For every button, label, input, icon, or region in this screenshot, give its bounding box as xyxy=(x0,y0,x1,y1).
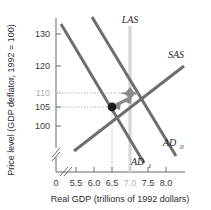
x-tick-label-0: 0 xyxy=(53,178,58,188)
as-ad-chart-figure: 130 120 110 105 100 0 5.5 6.0 6.5 7.0 7.… xyxy=(0,0,211,210)
guide-lines xyxy=(57,93,133,170)
x-axis-title: Real GDP (trillions of 1992 dollars) xyxy=(51,194,189,204)
ad0-label-subscript: 0 xyxy=(180,143,184,151)
y-tick-label-105: 105 xyxy=(35,102,50,112)
chart-canvas: 130 120 110 105 100 0 5.5 6.0 6.5 7.0 7.… xyxy=(0,0,211,210)
ad0-curve xyxy=(92,17,176,156)
ad1-label: AD xyxy=(130,156,145,167)
y-tick-label-120: 120 xyxy=(35,61,50,71)
x-tick-label-8-0: 8.0 xyxy=(160,178,173,188)
y-tick-label-100: 100 xyxy=(35,121,50,131)
y-tick-label-110: 110 xyxy=(36,88,50,98)
las-label: LAS xyxy=(121,14,139,25)
y-tick-label-130: 130 xyxy=(35,29,50,39)
x-tick-label-7-0: 7.0 xyxy=(124,178,137,188)
x-tick-marks xyxy=(76,167,166,172)
x-tick-label-6-5: 6.5 xyxy=(106,178,119,188)
ad0-label: AD xyxy=(162,137,177,148)
new-equilibrium-point xyxy=(108,103,117,112)
x-tick-label-6-0: 6.0 xyxy=(88,178,101,188)
ad1-label-subscript: 1 xyxy=(148,162,152,170)
sas-label: SAS xyxy=(168,49,184,60)
y-tick-marks xyxy=(56,34,61,126)
x-tick-label-5-5: 5.5 xyxy=(70,178,83,188)
x-tick-label-7-5: 7.5 xyxy=(142,178,155,188)
ad1-label-group: AD 1 xyxy=(130,156,152,170)
y-axis-title: Price level (GDP deflator, 1992 = 100) xyxy=(6,24,16,176)
y-axis-break-mark-1 xyxy=(52,148,60,157)
